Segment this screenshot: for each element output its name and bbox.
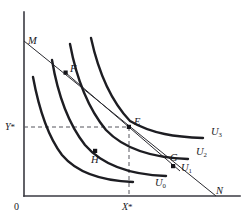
origin-label: 0: [14, 201, 19, 212]
axes-group: [24, 12, 240, 196]
figure-canvas: M N F E H G U0 U1 U2 U3 Y* X* 0: [0, 0, 243, 224]
indifference-curve-u3: [91, 38, 203, 138]
label-m: M: [27, 35, 38, 46]
point-marker-h: [93, 149, 97, 153]
label-f: F: [69, 63, 77, 74]
point-marker-e: [127, 125, 131, 129]
curve-label-u0: U0: [155, 177, 167, 189]
point-marker-f: [64, 71, 68, 75]
x-axis-tick-label: X*: [121, 201, 133, 212]
indifference-curve-figure: M N F E H G U0 U1 U2 U3 Y* X* 0: [0, 0, 243, 224]
curve-label-u3: U3: [211, 126, 223, 138]
label-n: N: [215, 185, 224, 196]
curve-label-u2: U2: [196, 146, 208, 158]
y-axis-tick-label: Y*: [5, 121, 16, 132]
curve-label-u1: U1: [181, 162, 192, 174]
label-e: E: [133, 116, 141, 127]
label-h: H: [90, 154, 100, 165]
label-g: G: [170, 152, 178, 163]
point-marker-g: [171, 164, 175, 168]
